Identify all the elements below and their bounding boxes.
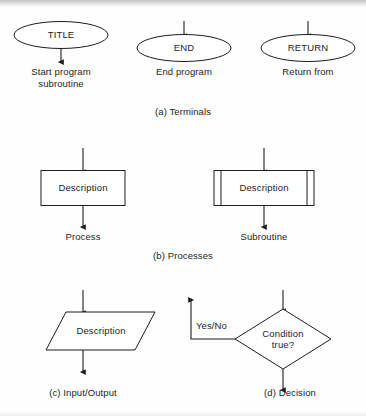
caption-terminals: (a) Terminals <box>133 106 233 117</box>
return-terminal-text: RETURN <box>261 42 355 53</box>
caption-decision: (d) Decision <box>240 387 340 398</box>
flowchart-symbols-figure: TITLE END RETURN Description Description… <box>0 0 366 416</box>
subroutine-box-label: Subroutine <box>214 231 314 243</box>
io-parallelogram-text: Description <box>53 325 149 336</box>
title-terminal-text: TITLE <box>14 29 108 40</box>
decision-branch-label: Yes/No <box>196 320 227 331</box>
end-terminal-text: END <box>137 42 231 53</box>
end-terminal-label: End program <box>134 66 234 78</box>
caption-processes: (b) Processes <box>133 250 233 261</box>
process-box-label: Process <box>33 231 133 243</box>
process-box-text: Description <box>41 182 125 193</box>
return-terminal-label: Return from <box>258 66 358 78</box>
title-terminal-label: Start program subroutine <box>11 66 111 89</box>
figure-vector-layer <box>0 0 366 416</box>
decision-diamond-text: Condition true? <box>247 328 319 350</box>
caption-input-output: (c) Input/Output <box>33 387 133 398</box>
subroutine-box-text: Description <box>221 182 307 193</box>
